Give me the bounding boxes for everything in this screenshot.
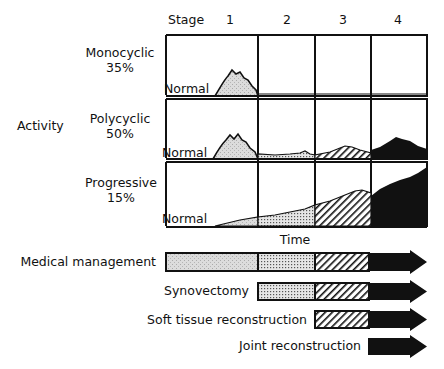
stage-3-label: 3 — [333, 13, 353, 27]
stage-2-label: 2 — [277, 13, 297, 27]
polycyclic-percent: 50% — [80, 127, 160, 141]
activity-axis-label: Activity — [17, 119, 64, 133]
progressive-normal-label: Normal — [162, 212, 207, 226]
stage-1-label: 1 — [220, 13, 240, 27]
monocyclic-percent: 35% — [80, 61, 160, 75]
stage-4-label: 4 — [388, 13, 408, 27]
polycyclic-normal-label: Normal — [162, 146, 207, 160]
time-axis-label: Time — [270, 233, 320, 247]
monocyclic-label: Monocyclic — [80, 46, 160, 60]
arrow-synovectomy — [258, 280, 427, 303]
stage-label: Stage — [168, 13, 204, 27]
joint-reconstruction-label: Joint reconstruction — [100, 339, 361, 353]
arrow-soft-tissue-reconstruction — [315, 308, 427, 331]
progressive-percent: 15% — [78, 191, 164, 205]
medical-management-label: Medical management — [0, 255, 156, 269]
monocyclic-normal-label: Normal — [164, 82, 209, 96]
arrow-joint-reconstruction — [368, 335, 427, 358]
polycyclic-label: Polycyclic — [80, 112, 160, 126]
soft-tissue-reconstruction-label: Soft tissue reconstruction — [100, 313, 307, 327]
synovectomy-label: Synovectomy — [100, 284, 249, 298]
arrow-medical-management — [166, 250, 427, 274]
progressive-label: Progressive — [78, 176, 164, 190]
